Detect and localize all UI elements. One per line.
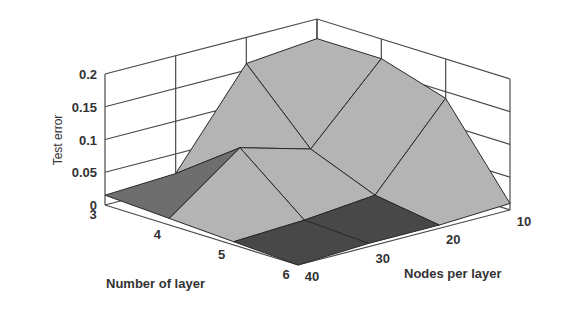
x-tick-label: 3 xyxy=(89,207,96,222)
z-tick-label: 0.2 xyxy=(79,67,97,82)
y-tick-label: 20 xyxy=(446,232,460,247)
x-axis-label: Number of layer xyxy=(106,276,205,291)
x-tick-label: 5 xyxy=(218,247,225,262)
z-tick-label: 0.05 xyxy=(72,165,97,180)
y-axis-label: Nodes per layer xyxy=(404,266,502,281)
surface-chart: 00.050.10.150.2345640302010 Test error N… xyxy=(0,0,567,310)
y-tick-label: 40 xyxy=(305,269,319,284)
z-tick-label: 0.1 xyxy=(79,133,97,148)
z-axis-label: Test error xyxy=(51,115,65,166)
z-tick-label: 0.15 xyxy=(72,100,97,115)
y-tick-label: 30 xyxy=(375,251,389,266)
x-tick-label: 4 xyxy=(154,227,162,242)
surface-mesh xyxy=(105,39,510,265)
x-tick-label: 6 xyxy=(282,267,289,282)
y-tick-label: 10 xyxy=(517,214,531,229)
